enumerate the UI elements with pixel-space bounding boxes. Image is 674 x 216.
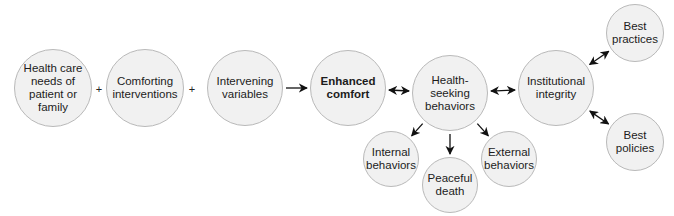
double-arrow-icon <box>590 111 609 124</box>
arrow-icon <box>412 124 423 136</box>
double-arrow-icon <box>389 90 409 91</box>
double-arrow-icon <box>491 90 515 91</box>
arrow-icon <box>477 124 488 136</box>
node-external-behaviors: External behaviors <box>481 131 537 187</box>
plus-operator: + <box>96 83 102 95</box>
node-best-practices: Best practices <box>606 4 664 62</box>
node-health-care-needs: Health care needs of patient or family <box>14 49 92 127</box>
node-intervening-variables: Intervening variables <box>207 50 283 126</box>
node-peaceful-death: Peaceful death <box>422 157 478 213</box>
node-enhanced-comfort: Enhanced comfort <box>310 50 386 126</box>
node-best-policies: Best policies <box>606 113 664 171</box>
node-institutional-integrity: Institutional integrity <box>518 50 594 126</box>
plus-operator: + <box>189 83 195 95</box>
node-health-seeking-behaviors: Health- seeking behaviors <box>412 55 488 131</box>
node-internal-behaviors: Internal behaviors <box>363 131 419 187</box>
double-arrow-icon <box>590 51 609 64</box>
node-comforting-interventions: Comforting interventions <box>106 49 184 127</box>
